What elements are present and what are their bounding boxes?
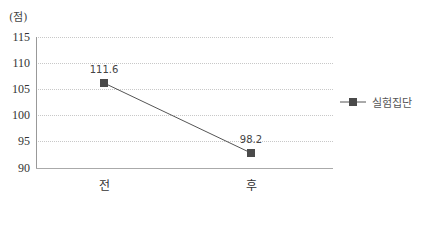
- legend-line-square-marker-icon: [340, 97, 366, 107]
- series-line-실험집단: [104, 83, 251, 153]
- legend: 실험집단: [340, 94, 412, 110]
- legend-label: 실험집단: [372, 94, 412, 110]
- data-label-전: 111.6: [90, 64, 119, 75]
- data-label-후: 98.2: [240, 134, 262, 145]
- data-point-전: [100, 79, 108, 87]
- x-tick-전: 전: [89, 176, 119, 193]
- gridlines: [36, 38, 333, 142]
- data-point-후: [247, 149, 255, 157]
- x-tick-후: 후: [236, 176, 266, 193]
